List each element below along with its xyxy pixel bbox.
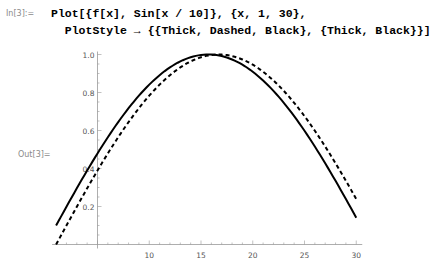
y-tick-label: 1.0: [83, 51, 95, 60]
x-tick-label: 30: [351, 251, 361, 260]
x-tick-label: 10: [144, 251, 154, 260]
y-tick-label: 0.6: [83, 127, 95, 136]
series-sin-solid-curve: [56, 55, 356, 226]
x-tick-label: 25: [300, 251, 310, 260]
x-tick-label: 20: [248, 251, 258, 260]
y-tick-label: 0.8: [83, 89, 95, 98]
y-tick-label: 0.2: [83, 203, 95, 212]
x-tick-label: 15: [196, 251, 206, 260]
